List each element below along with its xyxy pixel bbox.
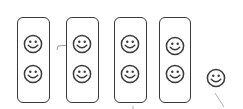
group-box-4 xyxy=(159,17,191,103)
smiley-face-icon xyxy=(72,34,92,54)
smiley-face-icon xyxy=(165,36,185,56)
smiley-face-icon xyxy=(120,34,140,54)
remainder-smiley-face-icon xyxy=(206,68,226,88)
group-box-3 xyxy=(114,17,147,103)
smiley-face-icon xyxy=(23,64,43,84)
smiley-face-icon xyxy=(23,34,43,54)
group-box-1 xyxy=(17,17,50,103)
group-box-2 xyxy=(66,17,99,103)
smiley-face-icon xyxy=(72,64,92,84)
smiley-face-icon xyxy=(165,64,185,84)
smiley-face-icon xyxy=(120,64,140,84)
